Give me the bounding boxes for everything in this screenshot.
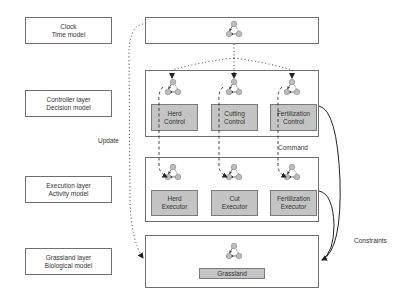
fertilization-control-line2: Control [283, 118, 304, 126]
fertilization-executor-line2: Executor [281, 203, 307, 211]
cut-executor-line2: Executor [222, 203, 248, 211]
execution-label-subtitle: Activity model [48, 190, 88, 198]
fertilization-executor-component: Fertilization Executor [270, 190, 317, 216]
herd-control-line1: Herd [167, 110, 181, 118]
cut-executor-line1: Cut [229, 195, 239, 203]
cutting-control-component: Cutting Control [211, 104, 258, 131]
grassland-layer-box [145, 235, 319, 288]
grassland-component: Grassland [199, 268, 265, 279]
herd-control-line2: Control [164, 118, 185, 126]
controller-label-subtitle: Decision model [46, 104, 90, 112]
herd-executor-component: Herd Executor [151, 190, 198, 216]
fertilization-control-component: Fertilization Control [270, 104, 317, 131]
herd-executor-line1: Herd [167, 195, 181, 203]
grassland-label-subtitle: Biological model [45, 262, 92, 270]
constraints-label: Constraints [354, 237, 387, 244]
fertilization-control-line1: Fertilization [277, 110, 310, 118]
herd-executor-line2: Executor [162, 203, 188, 211]
cut-executor-component: Cut Executor [211, 190, 258, 216]
grassland-label-title: Grassland layer [46, 254, 92, 262]
clock-label-title: Clock [60, 23, 76, 31]
clock-layer-label: Clock Time model [25, 17, 112, 44]
clock-layer-box [145, 17, 319, 44]
cutting-control-line2: Control [224, 118, 245, 126]
controller-label-title: Controller layer [46, 96, 90, 104]
grassland-component-label: Grassland [217, 270, 247, 278]
command-label: Command [278, 144, 308, 151]
cutting-control-line1: Cutting [224, 110, 245, 118]
clock-label-subtitle: Time model [52, 31, 86, 39]
execution-layer-label: Execution layer Activity model [25, 176, 112, 203]
grassland-layer-label: Grassland layer Biological model [25, 248, 112, 275]
fertilization-executor-line1: Fertilization [277, 195, 310, 203]
controller-layer-label: Controller layer Decision model [25, 90, 112, 117]
herd-control-component: Herd Control [151, 104, 198, 131]
execution-label-title: Execution layer [46, 182, 90, 190]
update-label: Update [98, 137, 119, 144]
